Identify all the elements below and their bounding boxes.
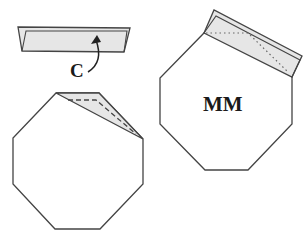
step-label-c: C bbox=[70, 60, 84, 81]
origami-diagram: C MM bbox=[0, 0, 304, 234]
right-octagon-label: MM bbox=[203, 92, 243, 116]
right-octagon bbox=[160, 10, 302, 170]
left-octagon bbox=[13, 93, 143, 229]
folded-strip bbox=[18, 27, 130, 52]
